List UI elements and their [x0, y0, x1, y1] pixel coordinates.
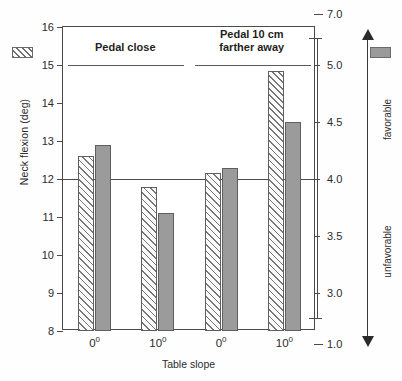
bar-neck-flexion	[268, 71, 284, 331]
right-tick-label: 7.0	[327, 8, 342, 19]
chart-figure: Neck flexion (deg) 8910111213141516 7.05…	[0, 0, 402, 381]
bar-perceived-posture	[222, 168, 238, 331]
right-tick	[314, 344, 323, 345]
right-tick-label: 3.5	[327, 231, 342, 242]
left-tick-label: 13	[42, 136, 54, 147]
label-unfavorable: unfavorable	[382, 212, 393, 292]
bar-perceived-posture	[158, 213, 174, 331]
x-tick-label: 00	[89, 335, 100, 349]
x-axis-title: Table slope	[62, 358, 315, 370]
left-tick	[57, 255, 63, 256]
left-tick-label: 9	[48, 288, 54, 299]
right-tick-label: 1.0	[327, 339, 342, 350]
arrow-up-icon	[362, 29, 374, 40]
left-tick	[57, 65, 63, 66]
group-rule	[195, 65, 311, 66]
label-favorable: favorable	[382, 85, 393, 155]
left-tick-label: 10	[42, 250, 54, 261]
right-tick-label: 5.0	[327, 60, 342, 71]
left-tick	[57, 217, 63, 218]
left-tick	[57, 293, 63, 294]
plot-area: 8910111213141516 7.05.04.54.03.53.01.0 0…	[62, 26, 315, 330]
left-tick-label: 8	[48, 326, 54, 337]
right-tick-label: 4.5	[327, 117, 342, 128]
x-tick-label: 00	[216, 335, 227, 349]
bar-neck-flexion	[205, 173, 221, 331]
bar-neck-flexion	[141, 187, 157, 331]
favorability-arrow-scale: favorable unfavorable	[360, 28, 376, 348]
y-axis-title-left: Neck flexion (deg)	[18, 57, 30, 227]
group-title-pedal-close: Pedal close	[70, 41, 180, 54]
left-tick-label: 15	[42, 60, 54, 71]
arrow-down-icon	[362, 336, 374, 347]
bar-perceived-posture	[285, 122, 301, 331]
group-title-pedal-farther: Pedal 10 cmfarther away	[197, 28, 307, 54]
right-axis-spine	[317, 38, 318, 317]
right-tick	[314, 14, 323, 15]
group-rule	[68, 65, 184, 66]
left-tick	[57, 27, 63, 28]
left-tick-label: 12	[42, 174, 54, 185]
bar-perceived-posture	[95, 145, 111, 331]
left-tick-label: 14	[42, 98, 54, 109]
left-tick	[57, 103, 63, 104]
axis-break-mark	[309, 318, 322, 319]
right-tick-label: 3.0	[327, 288, 342, 299]
left-tick	[57, 141, 63, 142]
left-tick	[57, 331, 63, 332]
left-tick-label: 11	[43, 212, 54, 223]
axis-break-mark	[309, 38, 322, 39]
arrow-shaft	[367, 38, 368, 338]
bar-neck-flexion	[78, 156, 94, 331]
left-tick-label: 16	[42, 22, 54, 33]
right-tick-label: 4.0	[327, 174, 342, 185]
x-tick-label: 100	[276, 335, 293, 349]
x-tick-label: 100	[149, 335, 166, 349]
